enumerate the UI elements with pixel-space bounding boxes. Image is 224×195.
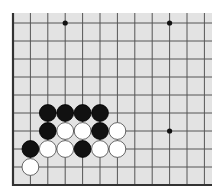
white-stone[interactable] [22,159,39,176]
white-stone[interactable] [109,141,126,158]
board-surface [13,13,212,185]
black-stone[interactable] [74,105,91,122]
white-stone[interactable] [92,141,109,158]
white-stone[interactable] [39,141,56,158]
black-stone[interactable] [92,123,109,140]
white-stone[interactable] [57,141,74,158]
go-board [0,0,224,195]
white-stone[interactable] [109,123,126,140]
black-stone[interactable] [57,105,74,122]
black-stone[interactable] [39,123,56,140]
black-stone[interactable] [39,105,56,122]
black-stone[interactable] [74,141,91,158]
white-stone[interactable] [74,123,91,140]
black-stone[interactable] [22,141,39,158]
star-point-icon [63,20,68,25]
black-stone[interactable] [92,105,109,122]
star-point-icon [167,128,172,133]
white-stone[interactable] [57,123,74,140]
star-point-icon [167,20,172,25]
